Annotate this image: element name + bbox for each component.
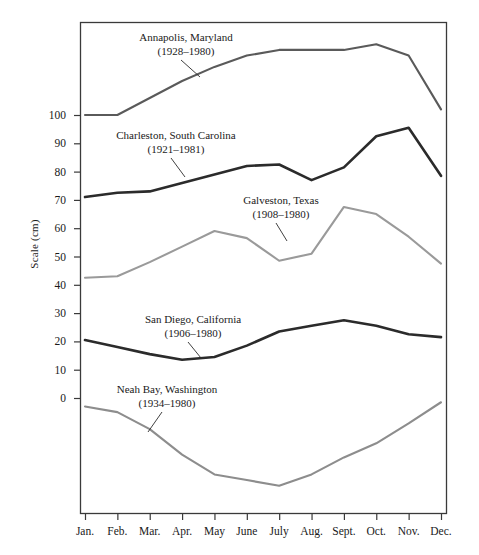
annotation-leader-line [171, 158, 185, 177]
y-tick-label: 0 [32, 392, 66, 404]
y-tick-label: 80 [32, 166, 66, 178]
series-line-3 [85, 320, 441, 360]
plot-area [0, 0, 479, 555]
series-annotation-years: (1908–1980) [243, 208, 318, 222]
annotation-leader-line [188, 342, 201, 358]
y-tick-label: 10 [32, 364, 66, 376]
series-annotation: Galveston, Texas(1908–1980) [243, 194, 318, 221]
y-tick-label: 100 [32, 109, 66, 121]
series-annotation-name: Neah Bay, Washington [117, 383, 218, 397]
series-annotation: Charleston, South Carolina(1921–1981) [116, 129, 235, 156]
y-tick-label: 20 [32, 335, 66, 347]
y-tick-label: 40 [32, 279, 66, 291]
y-tick-label: 60 [32, 222, 66, 234]
series-group [85, 44, 441, 485]
series-annotation-years: (1928–1980) [139, 45, 232, 59]
series-annotation: San Diego, California(1906–1980) [145, 313, 241, 340]
annotation-leader-line [181, 60, 200, 77]
x-tick-label: Dec. [417, 525, 465, 538]
y-tick-label: 90 [32, 137, 66, 149]
y-tick-label: 70 [32, 194, 66, 206]
series-annotation-years: (1934–1980) [117, 397, 218, 411]
series-annotation: Neah Bay, Washington(1934–1980) [117, 383, 218, 410]
series-annotation-years: (1921–1981) [116, 143, 235, 157]
series-annotation-name: Charleston, South Carolina [116, 129, 235, 143]
series-annotation-name: Annapolis, Maryland [139, 31, 232, 45]
tide-gauge-line-chart: Scale (cm) 1009080706050403020100 Jan.Fe… [0, 0, 479, 555]
y-tick-label: 30 [32, 307, 66, 319]
series-annotation-name: Galveston, Texas [243, 194, 318, 208]
series-line-4 [85, 402, 441, 485]
series-annotation-name: San Diego, California [145, 313, 241, 327]
series-annotation-years: (1906–1980) [145, 327, 241, 341]
series-annotation: Annapolis, Maryland(1928–1980) [139, 31, 232, 58]
annotation-leader-line [148, 412, 162, 432]
y-tick-label: 50 [32, 251, 66, 263]
annotation-leader-line [276, 223, 287, 241]
